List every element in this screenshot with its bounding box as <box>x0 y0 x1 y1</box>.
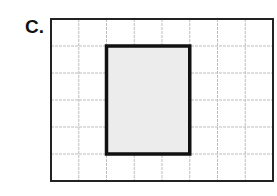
shaded-rectangle <box>107 46 190 154</box>
grid-figure <box>0 0 277 196</box>
